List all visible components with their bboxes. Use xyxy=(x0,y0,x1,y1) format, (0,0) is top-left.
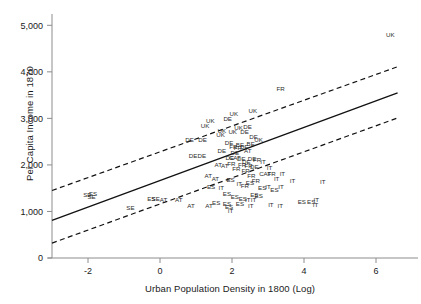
data-point-label: DE xyxy=(189,152,198,159)
data-point-label: ES xyxy=(270,186,278,193)
data-point-label: UK xyxy=(249,107,258,114)
data-point-label: FR xyxy=(241,182,250,189)
data-point-label: UK xyxy=(228,128,237,135)
data-point-label: ES xyxy=(207,183,215,190)
data-point-label: SE xyxy=(126,204,134,211)
x-tick-label: -2 xyxy=(84,266,92,276)
data-point-label: IT xyxy=(313,201,319,208)
data-point-label: IT xyxy=(277,202,283,209)
data-point-label: IT xyxy=(320,178,326,185)
y-tick-labels: 01,0002,0003,0004,0005,000 xyxy=(20,21,52,264)
data-point-label: IT xyxy=(228,207,234,214)
data-point-label: ES xyxy=(236,200,244,207)
y-tick-label: 4,000 xyxy=(20,67,43,77)
data-point-label: IT xyxy=(278,183,284,190)
plot-area: 01,0002,0003,0004,0005,000 -20246 UKFRUK… xyxy=(0,0,421,304)
data-point-label: ES xyxy=(226,176,234,183)
data-point-label: DE xyxy=(218,147,227,154)
data-point-label: IT xyxy=(274,175,280,182)
axes-group xyxy=(48,14,418,258)
lower-confidence-band xyxy=(52,118,398,243)
y-tick-label: 0 xyxy=(38,253,43,263)
data-point-label: IT xyxy=(260,158,266,165)
data-point-label: UK xyxy=(386,31,395,38)
data-point-label: DE xyxy=(223,115,232,122)
data-point-label: UK xyxy=(201,122,210,129)
data-point-label: IT xyxy=(290,177,296,184)
data-point-label: AT xyxy=(175,196,183,203)
y-tick-label: 3,000 xyxy=(20,114,43,124)
data-point-label: UK xyxy=(216,131,225,138)
data-point-label: AT xyxy=(205,202,213,209)
data-point-label: SE xyxy=(87,193,95,200)
scatter-chart: Per Capita Income in 1870 Urban Populati… xyxy=(0,0,421,304)
data-point-label: ES xyxy=(298,198,306,205)
data-point-label: IT xyxy=(280,170,286,177)
x-tick-label: 6 xyxy=(373,266,378,276)
x-tick-label: 0 xyxy=(157,266,162,276)
data-point-label: DE xyxy=(185,136,194,143)
data-point-label: AT xyxy=(212,175,220,182)
data-points: UKFRUKUKDEUKUKDEUKUKUKDEUKDEDEDEDEBEUKFR… xyxy=(83,31,395,214)
x-tick-label: 2 xyxy=(229,266,234,276)
data-point-label: AT xyxy=(187,202,195,209)
x-tick-labels: -20246 xyxy=(84,258,379,276)
data-point-label: FR xyxy=(276,85,285,92)
data-point-label: ES xyxy=(212,199,220,206)
data-point-label: DE xyxy=(240,128,249,135)
x-tick-label: 4 xyxy=(301,266,306,276)
y-tick-label: 5,000 xyxy=(20,21,43,31)
y-tick-label: 2,000 xyxy=(20,160,43,170)
data-point-label: DE xyxy=(197,152,206,159)
data-point-label: IT xyxy=(268,201,274,208)
data-point-label: AT xyxy=(221,162,229,169)
data-point-label: UK xyxy=(254,136,263,143)
data-point-label: SE xyxy=(152,195,160,202)
data-point-label: IT xyxy=(248,202,254,209)
data-point-label: DE xyxy=(250,163,259,170)
data-point-label: AT xyxy=(160,196,168,203)
data-point-label: AT xyxy=(244,147,252,154)
data-point-label: FR xyxy=(232,165,241,172)
data-point-label: DE xyxy=(198,136,207,143)
y-tick-label: 1,000 xyxy=(20,207,43,217)
